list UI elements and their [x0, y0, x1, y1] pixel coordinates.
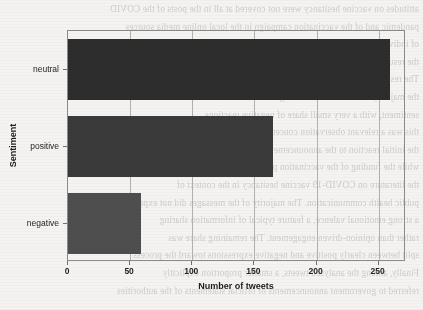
bar-neutral[interactable]	[68, 39, 390, 101]
y-tick-mark	[63, 146, 67, 147]
bar-positive[interactable]	[68, 116, 273, 178]
x-tick-mark	[378, 261, 379, 265]
x-tick-mark	[191, 261, 192, 265]
x-tick-label-50: 50	[124, 266, 133, 276]
x-tick-label-200: 200	[308, 266, 322, 276]
x-tick-mark	[67, 261, 68, 265]
bar-negative[interactable]	[68, 193, 141, 255]
x-tick-label-150: 150	[246, 266, 260, 276]
x-tick-mark	[316, 261, 317, 265]
y-axis-label: Sentiment	[8, 30, 22, 261]
y-tick-label-neutral: neutral	[33, 64, 59, 74]
bar-chart-figure: 050100150200250neutralpositivenegative N…	[0, 0, 423, 310]
y-tick-mark	[63, 69, 67, 70]
x-tick-label-0: 0	[65, 266, 70, 276]
x-tick-label-250: 250	[371, 266, 385, 276]
x-tick-mark	[129, 261, 130, 265]
plot-inner	[68, 31, 404, 260]
y-tick-label-positive: positive	[30, 141, 59, 151]
y-tick-label-negative: negative	[27, 218, 59, 228]
x-axis-label: Number of tweets	[67, 281, 405, 291]
y-tick-mark	[63, 223, 67, 224]
plot-area	[67, 30, 405, 261]
x-tick-mark	[253, 261, 254, 265]
x-tick-label-100: 100	[184, 266, 198, 276]
